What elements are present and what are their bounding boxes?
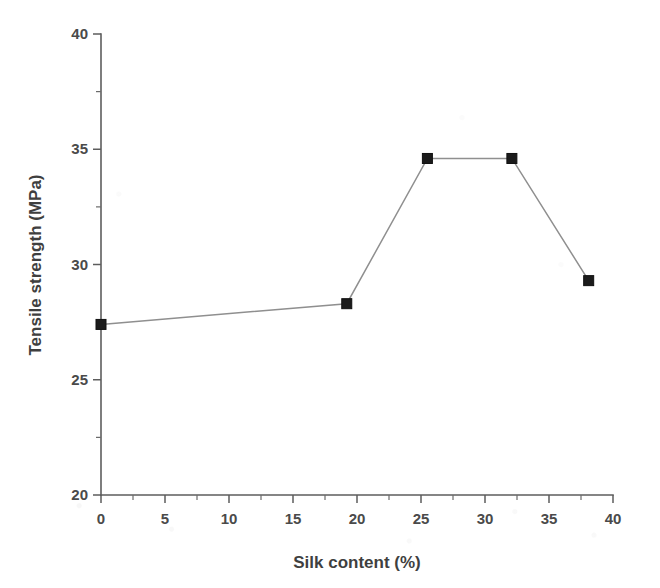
data-point-marker [342,299,352,309]
data-point-marker [96,319,106,329]
x-tick-label: 25 [413,510,430,527]
x-tick-label: 15 [285,510,302,527]
chart-canvas: 2025303540 0510152025303540 Silk content… [0,0,660,588]
y-axis-tick-labels: 2025303540 [71,25,88,503]
y-tick-label: 35 [71,140,88,157]
y-axis-title: Tensile strength (MPa) [26,174,45,355]
data-point-marker [507,153,517,163]
y-axis-ticks [93,34,101,495]
axes-group [101,34,613,495]
x-tick-label: 35 [541,510,558,527]
y-tick-label: 30 [71,256,88,273]
x-axis-ticks [101,495,613,503]
x-tick-label: 40 [605,510,622,527]
tensile-strength-line-chart: 2025303540 0510152025303540 Silk content… [0,0,660,588]
data-point-marker [422,153,432,163]
data-point-marker [584,276,594,286]
x-axis-tick-labels: 0510152025303540 [97,510,622,527]
series-markers [96,153,594,329]
x-tick-label: 0 [97,510,105,527]
x-tick-label: 20 [349,510,366,527]
y-tick-label: 40 [71,25,88,42]
x-axis-title: Silk content (%) [293,553,421,572]
x-tick-label: 10 [221,510,238,527]
y-tick-label: 20 [71,486,88,503]
x-tick-label: 5 [161,510,169,527]
y-tick-label: 25 [71,371,88,388]
x-tick-label: 30 [477,510,494,527]
